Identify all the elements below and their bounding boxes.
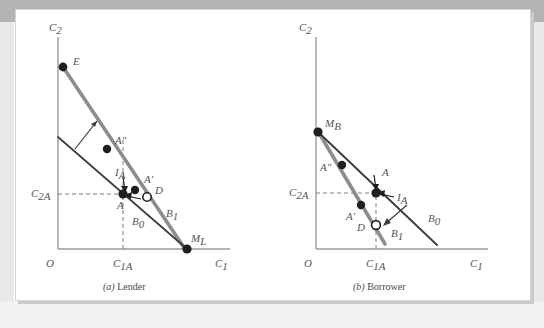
- borrower-x-axis-label: C1: [470, 257, 483, 272]
- borrower-caption: (b) Borrower: [353, 281, 406, 293]
- borrower-y-tick-label: C2A: [289, 186, 309, 201]
- lender-point-E: [59, 63, 68, 72]
- figure-panels: C2 C1 O C2A C1A E A″ A′ A D: [15, 9, 531, 301]
- lender-y-tick-label: C2A: [31, 187, 51, 202]
- page-left-margin: [0, 0, 14, 328]
- borrower-label-MB: MB: [324, 117, 341, 132]
- borrower-y-axis-label: C2: [299, 21, 312, 36]
- borrower-label-A: A: [381, 166, 389, 178]
- borrower-label-B0: B0: [428, 212, 441, 227]
- borrower-point-D: [372, 221, 381, 230]
- lender-x-axis-label: C1: [215, 257, 228, 272]
- lender-label-indifference: IA: [114, 166, 126, 181]
- lender-point-D: [143, 193, 151, 201]
- lender-origin-label: O: [46, 257, 54, 269]
- borrower-label-D: D: [356, 221, 365, 233]
- borrower-x-tick-label: C1A: [366, 257, 386, 272]
- lender-label-E: E: [72, 55, 80, 67]
- panel-lender: C2 C1 O C2A C1A E A″ A′ A D: [15, 9, 273, 301]
- lender-label-ML: ML: [190, 232, 206, 247]
- lender-label-B1: B1: [166, 207, 178, 222]
- borrower-label-indifference: IA: [396, 191, 408, 206]
- borrower-label-A-double-prime: A″: [319, 161, 332, 173]
- page-bottom-margin: [0, 302, 544, 328]
- lender-label-A-double-prime: A″: [114, 134, 127, 146]
- borrower-point-A-double-prime: [338, 161, 346, 169]
- lender-point-A: [118, 189, 127, 198]
- lender-y-axis-label: C2: [49, 21, 62, 36]
- lender-label-B0: B0: [132, 215, 145, 230]
- borrower-label-B1: B1: [391, 227, 403, 242]
- figure-root: C2 C1 O C2A C1A E A″ A′ A D: [0, 0, 544, 328]
- panel-borrower: C2 C1 O C2A C1A MB A″ A A′: [273, 9, 531, 301]
- borrower-point-A-prime: [357, 201, 365, 209]
- lender-label-D: D: [154, 184, 163, 196]
- lender-x-tick-label: C1A: [113, 257, 133, 272]
- lender-budget-shift-arrow: [75, 121, 97, 149]
- lender-point-ML: [182, 244, 191, 253]
- borrower-budget-shift-arrow: [383, 205, 407, 226]
- lender-caption: (a) Lender: [103, 281, 146, 293]
- borrower-origin-label: O: [304, 257, 312, 269]
- borrower-label-A-prime: A′: [345, 210, 356, 222]
- lender-label-A: A: [116, 199, 124, 211]
- borrower-point-A: [371, 188, 380, 197]
- borrower-point-MB: [313, 127, 322, 136]
- lender-label-A-prime: A′: [143, 173, 154, 185]
- lender-point-A-prime: [131, 186, 139, 194]
- lender-point-A-double-prime: [103, 145, 111, 153]
